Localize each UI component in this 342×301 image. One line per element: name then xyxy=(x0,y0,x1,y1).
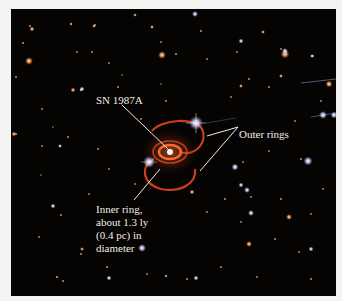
inner-ring-label-line: about 1.3 ly xyxy=(96,216,176,229)
supernova-label: SN 1987A xyxy=(96,94,143,107)
outer-rings-label: Outer rings xyxy=(239,128,289,141)
inner-ring-pointer-line xyxy=(134,169,160,200)
supernova-photo: SN 1987A Outer rings Inner ring, about 1… xyxy=(11,9,336,296)
outer-ring-pointer-upper xyxy=(207,127,238,136)
inner-ring-label-line: Inner ring, xyxy=(96,203,176,216)
inner-ring-label-line: diameter xyxy=(96,242,176,255)
inner-ring-label: Inner ring, about 1.3 ly (0.4 pc) in dia… xyxy=(96,203,176,255)
outer-ring-pointer-lower xyxy=(200,127,238,171)
inner-ring-label-line: (0.4 pc) in xyxy=(96,229,176,242)
